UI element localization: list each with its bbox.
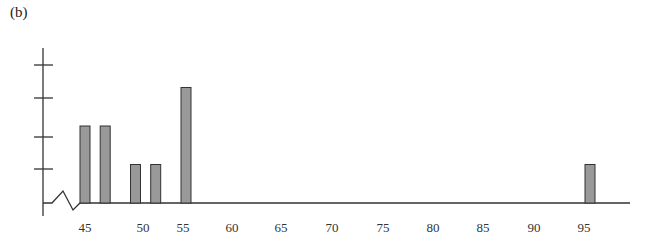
x-tick-label: 95 (578, 220, 591, 235)
x-tick-label: 85 (477, 220, 490, 235)
x-tick-label: 80 (427, 220, 440, 235)
x-tick-label: 55 (177, 220, 190, 235)
bar-95 (585, 165, 595, 204)
x-tick-label: 75 (377, 220, 390, 235)
x-tick-label: 65 (275, 220, 288, 235)
bar-55 (181, 88, 191, 204)
bar-47 (100, 126, 110, 203)
bar-45 (80, 126, 90, 203)
x-tick-label: 50 (137, 220, 150, 235)
x-tick-label: 70 (326, 220, 339, 235)
bar-52 (151, 165, 161, 204)
x-tick-label: 45 (79, 220, 92, 235)
bar-50 (131, 165, 141, 204)
bar-chart: 4550556065707580859095 (0, 0, 654, 249)
x-tick-label: 60 (226, 220, 239, 235)
x-tick-label: 90 (528, 220, 541, 235)
